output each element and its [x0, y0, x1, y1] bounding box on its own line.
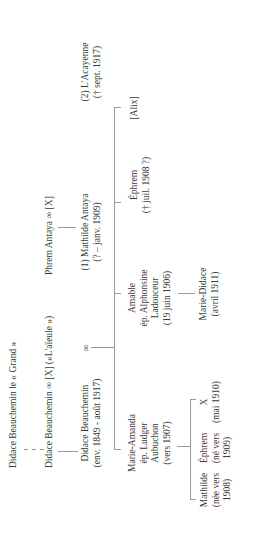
amable-child-connector [178, 293, 195, 294]
child-ephrem: Éphrem († juil. 1908 ?) [129, 157, 152, 213]
acayenne-dates: († sept. 1917) [92, 43, 104, 102]
marie-amanda-child-connector [177, 446, 190, 447]
marie-amanda-spouse-2: Aubuchon [150, 414, 162, 472]
mathilde-name: Mathilde [199, 473, 211, 508]
child-alix: [Alix] [129, 96, 141, 119]
didace-father-connector [58, 451, 78, 452]
grandchild-x: X (mai 1910) [199, 381, 222, 423]
genealogy-diagram: Didace Beauchemin le « Grand » Didace Be… [0, 0, 255, 550]
amable-spouse-1: ép. Alphonsine [139, 270, 151, 327]
antaya-connector [58, 227, 76, 228]
tick-x [190, 399, 196, 400]
marie-amanda-date: (vers 1907) [162, 414, 174, 472]
didace-node: Didace Beauchemin (env. 1849 - août 1917… [80, 379, 103, 468]
aubuchon-children-bar [190, 400, 191, 500]
tick-amable [114, 293, 121, 294]
couple-antaya-label: Phrem Antaya ∞ [X] [44, 196, 56, 275]
x-name: X [199, 381, 211, 423]
marie-amanda-name: Marie-Amanda [127, 414, 139, 472]
amable-name: Amable [127, 270, 139, 327]
marriage-symbol: ∞ [81, 344, 91, 351]
mathilde-antaya-dates: (? – janv. 1909) [92, 193, 104, 270]
acayenne-node: (2) L'Acayenne († sept. 1917) [80, 43, 103, 102]
tick-marie-amanda [114, 449, 121, 450]
ephrem-gc-born-2: 1909) [222, 433, 234, 463]
child-marie-amanda: Marie-Amanda ép. Ludger Aubuchon (vers 1… [127, 414, 173, 472]
tick-ephrem [114, 202, 121, 203]
acayenne-name: (2) L'Acayenne [80, 43, 92, 102]
marriage-connector [92, 347, 114, 348]
marie-didace-date: (avril 1911) [210, 268, 222, 321]
couple-didace-label: Didace Beauchemin ∞ [X] («L'aïeule ») [44, 316, 56, 468]
x-date: (mai 1910) [211, 381, 223, 423]
marie-didace-name: Marie-Didace [198, 268, 210, 321]
grandchild-ephrem: Éphrem (né vers 1909) [199, 433, 234, 463]
amable-spouse-2: Ladouceur [150, 270, 162, 327]
ancestor-connector [24, 449, 44, 450]
child-amable: Amable ép. Alphonsine Ladouceur (19 juin… [127, 270, 173, 327]
children-bar [114, 108, 115, 450]
ephrem-gc-name: Éphrem [199, 433, 211, 463]
grandchild-marie-didace: Marie-Didace (avril 1911) [198, 268, 221, 321]
ephrem-gc-born-1: (né vers [211, 433, 223, 463]
mathilde-born-2: 1908) [222, 473, 234, 508]
alix-name: [Alix] [129, 96, 141, 119]
marie-amanda-spouse-1: ép. Ludger [139, 414, 151, 472]
mathilde-antaya-name: (1) Mathilde Antaya [80, 193, 92, 270]
didace-dates: (env. 1849 - août 1917) [92, 379, 104, 468]
tick-mathilde [190, 499, 196, 500]
mathilde-born-1: (née vers [211, 473, 223, 508]
mathilde-antaya-node: (1) Mathilde Antaya (? – janv. 1909) [80, 193, 103, 270]
ephrem-dates: († juil. 1908 ?) [141, 157, 153, 213]
grandchild-mathilde: Mathilde (née vers 1908) [199, 473, 234, 508]
didace-name: Didace Beauchemin [80, 379, 92, 468]
ancestor-label: Didace Beauchemin le « Grand » [8, 342, 20, 468]
ephrem-name: Éphrem [129, 157, 141, 213]
amable-date: (19 juin 1906) [162, 270, 174, 327]
tick-alix [114, 107, 121, 108]
